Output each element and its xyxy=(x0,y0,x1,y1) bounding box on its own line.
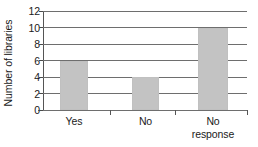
y-axis-tick-label: 6 xyxy=(18,56,40,66)
plot-area xyxy=(43,11,247,110)
gridline xyxy=(43,11,247,12)
y-axis-tickmark xyxy=(39,110,43,111)
y-axis-tick-label: 2 xyxy=(18,89,40,99)
y-axis-tick-label: 10 xyxy=(18,23,40,33)
y-axis-tickmark xyxy=(39,77,43,78)
y-axis-tickmark xyxy=(39,93,43,94)
x-axis-category-label-line: response xyxy=(173,128,253,141)
x-axis-category-label-line: No xyxy=(173,115,253,128)
y-axis-tick-label: 0 xyxy=(18,105,40,115)
x-axis-category-label-line: Yes xyxy=(34,115,114,128)
y-axis-tickmark xyxy=(39,11,43,12)
y-axis-tick-label: 12 xyxy=(18,6,40,16)
bar[interactable] xyxy=(198,28,228,111)
y-axis-tickmark xyxy=(39,44,43,45)
bar-chart: Number of libraries 024681012 YesNoNores… xyxy=(0,0,258,147)
x-axis-tickmark xyxy=(110,110,111,115)
bar[interactable] xyxy=(132,77,159,110)
x-axis-category-labels: YesNoNoresponse xyxy=(43,115,247,147)
y-axis-tickmark xyxy=(39,27,43,28)
x-axis-category-label: Noresponse xyxy=(173,115,253,141)
y-axis-tick-label: 4 xyxy=(18,72,40,82)
x-axis-category-label: Yes xyxy=(34,115,114,128)
y-axis-tick-label: 8 xyxy=(18,39,40,49)
x-axis-tickmark xyxy=(175,110,176,115)
y-axis-tickmark xyxy=(39,60,43,61)
bar[interactable] xyxy=(60,61,88,111)
y-axis-title: Number of libraries xyxy=(1,8,15,118)
